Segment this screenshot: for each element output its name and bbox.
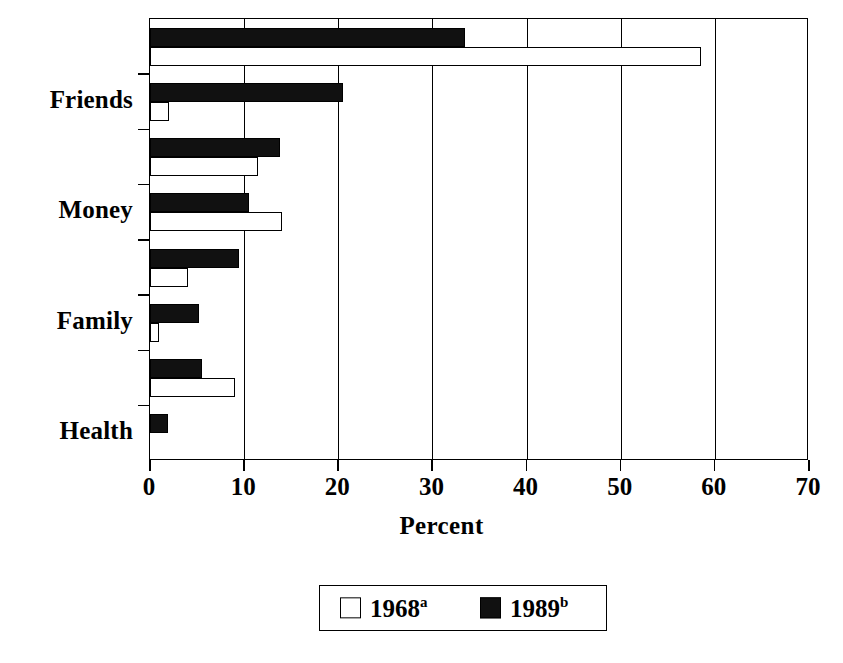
bar-1989-0 [150,28,465,47]
y-axis-label-money: Money [0,197,133,222]
bar-1989-5 [150,304,199,323]
bar-1968-0 [150,47,701,66]
bar-1989-6 [150,359,202,378]
black-square-icon [480,597,501,618]
y-tick-7 [138,405,149,407]
x-tick-label-50: 50 [607,474,632,499]
white-square-icon [340,597,361,618]
legend-item-1968: 1968a [340,595,428,620]
x-tick-label-20: 20 [325,474,350,499]
x-tick-10 [243,460,245,471]
x-tick-label-10: 10 [231,474,256,499]
y-tick-3 [138,184,149,186]
y-tick-2 [138,129,149,131]
legend-superscript-a: a [420,594,428,610]
legend-superscript-b: b [560,594,568,610]
x-tick-label-70: 70 [796,474,821,499]
x-tick-40 [526,460,528,471]
chart-legend: 1968a 1989b [319,585,607,631]
x-tick-60 [714,460,716,471]
x-axis-title-text: Percent [399,512,483,540]
legend-label-1968: 1968a [370,595,428,620]
bar-1989-7 [150,414,168,433]
legend-label-1989-text: 1989 [510,595,560,622]
x-tick-0 [149,460,151,471]
y-tick-5 [138,294,149,296]
x-tick-20 [337,460,339,471]
bars-layer [150,19,807,459]
y-axis-label-friends: Friends [0,87,133,112]
bar-1968-3 [150,212,282,231]
y-axis-label-health: Health [0,418,133,443]
bar-1968-4 [150,268,188,287]
x-tick-50 [620,460,622,471]
bar-1968-5 [150,323,159,342]
legend-label-1989: 1989b [510,595,568,620]
y-axis-label-family: Family [0,308,133,333]
bar-1968-6 [150,378,235,397]
bar-1968-1 [150,102,169,121]
y-tick-1 [138,73,149,75]
x-tick-label-60: 60 [701,474,726,499]
legend-item-1989: 1989b [480,595,568,620]
x-tick-70 [808,460,810,471]
y-tick-4 [138,239,149,241]
x-tick-30 [431,460,433,471]
bar-1968-2 [150,157,258,176]
x-tick-label-0: 0 [143,474,156,499]
x-tick-label-40: 40 [513,474,538,499]
bar-1989-3 [150,193,249,212]
y-tick-6 [138,350,149,352]
bar-1989-4 [150,249,239,268]
bar-1989-1 [150,83,343,102]
plot-area [149,18,808,460]
x-tick-label-30: 30 [419,474,444,499]
chart-figure: FriendsMoneyFamilyHealth 010203040506070… [0,0,843,663]
x-axis-title: Percent [0,512,843,540]
legend-label-1968-text: 1968 [370,595,420,622]
bar-1989-2 [150,138,280,157]
